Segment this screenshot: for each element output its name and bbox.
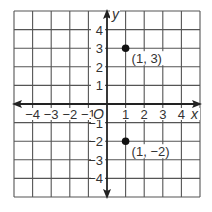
point-label: (1, 3) <box>132 51 162 66</box>
y-tick-label: −2 <box>88 134 103 149</box>
x-tick-label: −2 <box>62 107 77 122</box>
axes <box>12 9 202 199</box>
coordinate-plane: −4−3−2−112344321−1−2−3−4Oyx (1, 3)(1, −2… <box>0 0 212 212</box>
x-tick-label: 4 <box>178 107 185 122</box>
point-marker <box>122 44 130 52</box>
x-tick-label: −4 <box>25 107 40 122</box>
point-marker <box>122 137 130 145</box>
point-label: (1, −2) <box>132 144 170 159</box>
y-tick-label: 2 <box>96 60 103 75</box>
x-tick-label: 3 <box>159 107 166 122</box>
x-tick-label: 1 <box>122 107 129 122</box>
x-tick-label: −3 <box>44 107 59 122</box>
origin-label: O <box>93 106 104 122</box>
y-tick-label: 1 <box>96 78 103 93</box>
y-tick-label: 3 <box>96 41 103 56</box>
y-tick-label: 4 <box>96 23 103 38</box>
x-tick-label: 2 <box>141 107 148 122</box>
x-axis-label: x <box>190 106 199 122</box>
y-axis-label: y <box>111 6 120 22</box>
y-tick-label: −4 <box>88 171 103 186</box>
y-tick-label: −3 <box>88 153 103 168</box>
